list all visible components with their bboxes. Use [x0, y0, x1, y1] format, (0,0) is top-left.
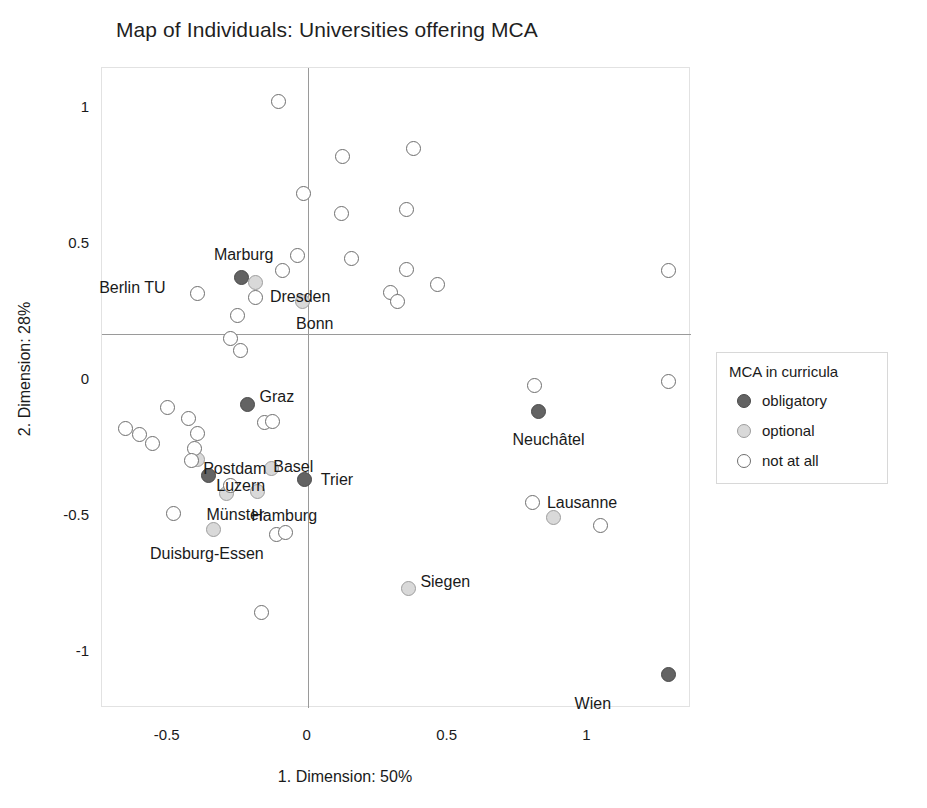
horizontal-zero-axis-line — [102, 334, 691, 335]
data-point — [546, 510, 561, 525]
data-point — [166, 506, 181, 521]
data-point — [390, 294, 405, 309]
data-point-siegen — [401, 581, 416, 596]
y-tick-label: 0 — [43, 370, 89, 387]
y-tick-label: 0.5 — [43, 234, 89, 251]
data-point — [399, 202, 414, 217]
data-point-marburg — [234, 270, 249, 285]
data-point — [190, 426, 205, 441]
point-label: Hamburg — [251, 508, 317, 524]
data-point — [527, 378, 542, 393]
point-label: Duisburg-Essen — [150, 546, 264, 562]
legend-label: optional — [762, 422, 815, 439]
x-tick-label: 1 — [582, 726, 590, 743]
point-label: Berlin TU — [99, 280, 165, 296]
data-point — [230, 308, 245, 323]
legend-title: MCA in curricula — [729, 363, 877, 380]
legend-item-obligatory[interactable]: obligatory — [737, 392, 877, 409]
data-point — [265, 414, 280, 429]
legend-item-optional[interactable]: optional — [737, 422, 877, 439]
data-point — [399, 262, 414, 277]
data-point — [334, 206, 349, 221]
point-label: Marburg — [214, 247, 274, 263]
x-tick-label: 0.5 — [436, 726, 457, 743]
x-tick-label: -0.5 — [154, 726, 180, 743]
legend: MCA in curricula obligatoryoptionalnot a… — [716, 352, 888, 484]
data-point — [430, 277, 445, 292]
data-point — [233, 343, 248, 358]
data-point — [160, 400, 175, 415]
y-axis-label: 2. Dimension: 28% — [16, 89, 34, 649]
vertical-zero-axis-line — [308, 68, 309, 708]
scatter-plot-figure: Map of Individuals: Universities offerin… — [0, 0, 927, 808]
data-point — [118, 421, 133, 436]
x-axis-label: 1. Dimension: 50% — [0, 768, 690, 786]
data-point-duisburg-essen — [206, 522, 221, 537]
point-label: Basel — [273, 459, 313, 475]
y-tick-label: 1 — [43, 98, 89, 115]
data-point — [248, 290, 263, 305]
data-point — [254, 605, 269, 620]
page-title: Map of Individuals: Universities offerin… — [116, 18, 538, 42]
data-point — [181, 411, 196, 426]
data-point — [661, 374, 676, 389]
data-point — [145, 436, 160, 451]
point-label: Siegen — [420, 574, 470, 590]
data-point-wien — [661, 667, 676, 682]
data-point — [278, 525, 293, 540]
data-point — [296, 186, 311, 201]
point-label: Lausanne — [547, 495, 617, 511]
legend-marker-icon — [737, 454, 751, 468]
legend-item-none[interactable]: not at all — [737, 452, 877, 469]
data-point — [661, 263, 676, 278]
data-point — [344, 251, 359, 266]
y-tick-label: -0.5 — [43, 506, 89, 523]
legend-marker-icon — [737, 424, 751, 438]
point-label: Graz — [260, 389, 295, 405]
x-tick-label: 0 — [302, 726, 310, 743]
data-point — [406, 141, 421, 156]
point-label: Bonn — [296, 316, 333, 332]
plot-area: MarburgBerlin TUDresdenBonnGrazPostdamBa… — [101, 67, 690, 707]
point-label: Trier — [321, 472, 353, 488]
data-point — [290, 248, 305, 263]
point-label: Luzern — [216, 478, 265, 494]
y-tick-label: -1 — [43, 641, 89, 658]
data-point-lausanne — [525, 495, 540, 510]
data-point — [275, 263, 290, 278]
data-point-berlin-tu — [190, 286, 205, 301]
legend-label: not at all — [762, 452, 819, 469]
legend-label: obligatory — [762, 392, 827, 409]
legend-entries: obligatoryoptionalnot at all — [729, 392, 877, 469]
data-point-neuch-tel — [531, 404, 546, 419]
data-point — [593, 518, 608, 533]
point-label: Wien — [575, 696, 611, 712]
point-label: Neuchâtel — [513, 432, 585, 448]
data-point-dresden — [248, 275, 263, 290]
data-point — [271, 94, 286, 109]
legend-marker-icon — [737, 394, 751, 408]
data-point — [335, 149, 350, 164]
point-label: Dresden — [270, 289, 330, 305]
data-point-graz — [240, 397, 255, 412]
point-label: Postdam — [203, 461, 266, 477]
